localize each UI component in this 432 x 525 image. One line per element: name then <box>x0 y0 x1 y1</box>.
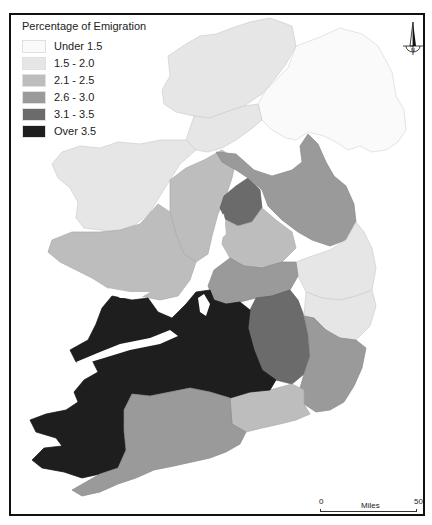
legend-swatch <box>22 108 46 121</box>
legend-item-3-1-3-5: 3.1 - 3.5 <box>22 106 162 122</box>
legend-swatch <box>22 40 46 53</box>
legend-swatch <box>22 74 46 87</box>
legend-swatch <box>22 91 46 104</box>
scale-start-label: 0 <box>319 497 323 506</box>
legend-label: 1.5 - 2.0 <box>54 57 94 69</box>
legend-item-over-3-5: Over 3.5 <box>22 123 162 139</box>
scale-end-label: 50 <box>414 497 423 506</box>
svg-text:N: N <box>411 47 415 53</box>
scale-bar: 0 Miles 50 <box>316 497 426 519</box>
legend-label: 2.1 - 2.5 <box>54 74 94 86</box>
legend-swatch <box>22 57 46 70</box>
legend-item-2-6-3-0: 2.6 - 3.0 <box>22 89 162 105</box>
legend-item-1-5-2-0: 1.5 - 2.0 <box>22 55 162 71</box>
legend-item-2-1-2-5: 2.1 - 2.5 <box>22 72 162 88</box>
legend-label: 2.6 - 3.0 <box>54 91 94 103</box>
scale-bar-line <box>320 509 417 512</box>
map-legend: Percentage of Emigration Under 1.5 1.5 -… <box>22 20 162 140</box>
legend-swatch <box>22 125 46 138</box>
legend-title: Percentage of Emigration <box>22 20 162 32</box>
legend-label: 3.1 - 3.5 <box>54 108 94 120</box>
legend-item-under-1-5: Under 1.5 <box>22 38 162 54</box>
legend-label: Over 3.5 <box>54 125 96 137</box>
legend-label: Under 1.5 <box>54 40 102 52</box>
north-arrow-icon: N <box>402 22 424 56</box>
